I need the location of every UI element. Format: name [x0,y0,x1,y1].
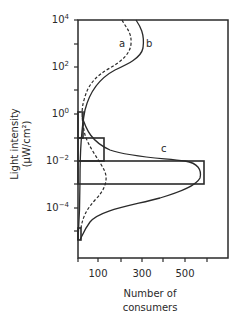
x-tick-label-500: 500 [170,268,200,279]
curve-label-c: c [161,143,167,154]
y-tick-label-1e0: 100 [29,107,69,119]
y-axis-title-line1: Light intensity [9,79,21,209]
plot-frame [78,20,228,258]
x-tick-label-300: 300 [127,268,157,279]
curve-c [80,116,200,240]
x-axis-title-line1: Number of [100,287,200,301]
x-axis-title-line2: consumers [100,301,200,315]
y-axis-title-line2: (μW/cm²) [21,79,33,209]
y-tick-label-1e-2: 10−2 [29,154,69,166]
y-tick-label-1e2: 102 [29,60,69,72]
y-tick-label-1e4: 104 [29,13,69,25]
curve-label-b: b [146,38,152,49]
y-axis-title: Light intensity (μW/cm²) [9,79,33,209]
curve-a [81,20,131,228]
y-tick-label-1e-4: 10−4 [29,201,69,213]
x-axis-title: Number of consumers [100,287,200,315]
x-tick-label-100: 100 [83,268,113,279]
histogram [78,112,204,240]
curve-label-a: a [119,38,125,49]
